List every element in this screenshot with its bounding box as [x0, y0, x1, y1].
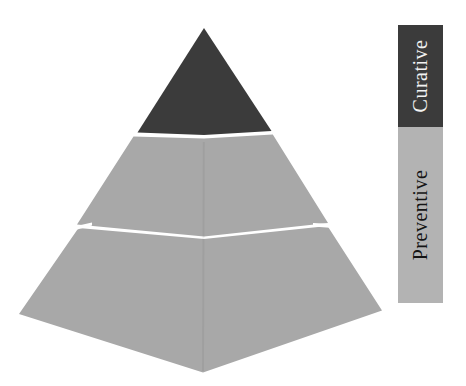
pyramid-tier-preventive-base — [19, 226, 382, 373]
legend-item-preventive: Preventive — [398, 127, 443, 303]
figure-canvas: Curative Preventive — [0, 0, 466, 386]
legend-label-curative: Curative — [411, 40, 431, 113]
legend-label-preventive: Preventive — [411, 170, 431, 261]
pyramid-front-edge — [203, 142, 204, 371]
pyramid-tier-preventive-middle — [77, 135, 328, 237]
legend: Curative Preventive — [398, 25, 443, 303]
pyramid-tier-curative — [138, 28, 272, 135]
pyramid-diagram — [0, 0, 466, 386]
legend-item-curative: Curative — [398, 25, 443, 127]
